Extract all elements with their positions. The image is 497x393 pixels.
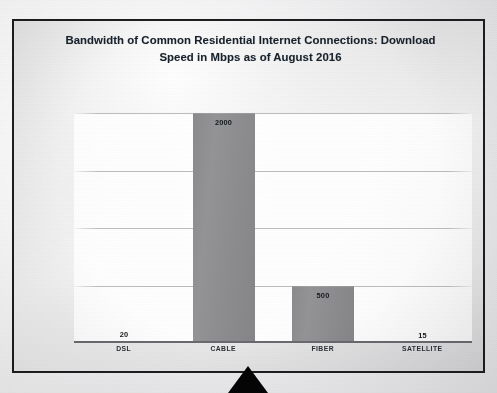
plot-area: 20 2000 500 15 DSL CABLE FIBER bbox=[74, 113, 472, 343]
x-axis-label-dsl: DSL bbox=[74, 345, 174, 352]
bar-series: 20 2000 500 15 bbox=[74, 113, 472, 343]
triangle-pointer-icon bbox=[228, 366, 268, 393]
bar-cable[interactable]: 2000 bbox=[193, 113, 255, 343]
chart-title-line-2: Speed in Mbps as of August 2016 bbox=[40, 49, 461, 66]
x-axis-label-cable: CABLE bbox=[174, 345, 274, 352]
bar-slot-satellite: 15 bbox=[373, 113, 473, 343]
bar-value-dsl: 20 bbox=[93, 330, 155, 339]
chart-title: Bandwidth of Common Residential Internet… bbox=[40, 32, 461, 65]
x-axis-label-fiber: FIBER bbox=[273, 345, 373, 352]
bar-slot-fiber: 500 bbox=[273, 113, 373, 343]
x-axis-line bbox=[74, 341, 472, 343]
chart-title-line-1: Bandwidth of Common Residential Internet… bbox=[40, 32, 461, 49]
x-axis-label-satellite: SATELLITE bbox=[373, 345, 473, 352]
bar-slot-cable: 2000 bbox=[174, 113, 274, 343]
bar-slot-dsl: 20 bbox=[74, 113, 174, 343]
bar-value-fiber: 500 bbox=[292, 291, 354, 300]
bar-value-satellite: 15 bbox=[392, 331, 454, 340]
printed-slide: Bandwidth of Common Residential Internet… bbox=[12, 19, 485, 373]
bar-value-cable: 2000 bbox=[193, 118, 255, 127]
bar-fiber[interactable]: 500 bbox=[292, 286, 354, 344]
